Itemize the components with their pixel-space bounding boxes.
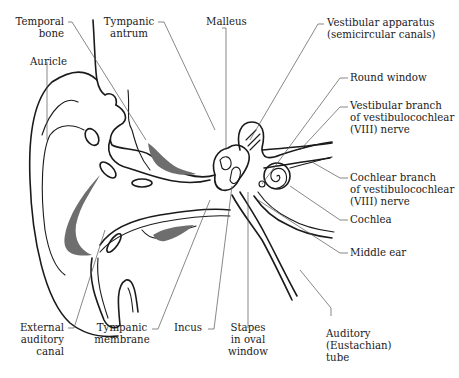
label-tympanic-antrum: Tympanic antrum bbox=[102, 16, 156, 40]
leader-auditory-tube bbox=[300, 270, 331, 316]
label-line: Vestibular branch bbox=[350, 100, 454, 112]
label-stapes-in-oval-window: Stapes in oval window bbox=[226, 322, 270, 358]
bone-cell-3 bbox=[132, 179, 152, 187]
canal-lower-loop-inner bbox=[98, 258, 133, 318]
semicircular-canal-hatch bbox=[246, 130, 260, 150]
label-line: tube bbox=[326, 352, 392, 364]
leader-round-window bbox=[262, 78, 348, 184]
label-vestibular-branch: Vestibular branch of vestibulocochlear (… bbox=[350, 100, 454, 136]
label-line: Cochlear branch bbox=[350, 172, 454, 184]
label-line: Tympanic bbox=[94, 322, 150, 334]
auditory-tube-inner bbox=[240, 192, 297, 296]
concha-shading bbox=[64, 175, 100, 256]
cochlea-spiral bbox=[271, 168, 287, 188]
label-line: Auricle bbox=[30, 56, 67, 68]
leader-cochlear-branch bbox=[312, 162, 348, 178]
label-line: (VIII) nerve bbox=[350, 124, 454, 136]
label-line: of vestibulocochlear bbox=[350, 112, 454, 124]
label-line: Vestibular apparatus bbox=[327, 17, 436, 29]
label-line: canal bbox=[10, 346, 64, 358]
bone-cell-1 bbox=[82, 126, 101, 148]
leader-malleus bbox=[222, 28, 226, 150]
label-line: of vestibulocochlear bbox=[350, 184, 454, 196]
ossicles-outline bbox=[213, 145, 249, 190]
label-line: Round window bbox=[350, 72, 427, 84]
label-line: Cochlea bbox=[350, 214, 392, 226]
label-line: bone bbox=[10, 28, 64, 40]
label-line: Malleus bbox=[206, 16, 247, 28]
middle-ear-lower-wall-inner bbox=[258, 192, 334, 232]
label-auricle: Auricle bbox=[30, 56, 67, 68]
label-line: Auditory bbox=[326, 328, 392, 340]
label-cochlear-branch: Cochlear branch of vestibulocochlear (VI… bbox=[350, 172, 454, 208]
label-temporal-bone: Temporal bone bbox=[10, 16, 64, 40]
label-external-auditory-canal: External auditory canal bbox=[10, 322, 64, 358]
canal-cell bbox=[104, 232, 123, 255]
label-incus: Incus bbox=[174, 322, 202, 334]
label-malleus: Malleus bbox=[206, 16, 247, 28]
antrum-line bbox=[128, 90, 150, 170]
label-line: window bbox=[226, 346, 270, 358]
label-line: External bbox=[10, 322, 64, 334]
auricle-inner-fold bbox=[42, 100, 78, 135]
label-line: Incus bbox=[174, 322, 202, 334]
label-line: Temporal bbox=[10, 16, 64, 28]
leader-incus bbox=[208, 186, 232, 329]
label-line: Stapes bbox=[226, 322, 270, 334]
antrum-shading bbox=[148, 143, 196, 175]
label-line: (VIII) nerve bbox=[350, 196, 454, 208]
canal-shading bbox=[153, 225, 194, 241]
label-cochlea: Cochlea bbox=[350, 214, 392, 226]
label-vestibular-apparatus: Vestibular apparatus (semicircular canal… bbox=[327, 17, 436, 41]
label-middle-ear: Middle ear bbox=[350, 247, 406, 259]
malleus-shape bbox=[220, 157, 231, 170]
label-line: (semicircular canals) bbox=[327, 29, 436, 41]
label-line: (Eustachian) bbox=[326, 340, 392, 352]
label-line: Middle ear bbox=[350, 247, 406, 259]
auditory-tube-outer bbox=[232, 195, 292, 300]
label-line: Tympanic bbox=[102, 16, 156, 28]
label-line: membrane bbox=[94, 334, 150, 346]
label-line: in oval bbox=[226, 334, 270, 346]
label-round-window: Round window bbox=[350, 72, 427, 84]
leader-vestibular-apparatus bbox=[250, 24, 324, 140]
leader-tympanic-antrum bbox=[158, 22, 215, 130]
leader-cochlea bbox=[290, 186, 348, 220]
label-line: antrum bbox=[102, 28, 156, 40]
label-line: auditory bbox=[10, 334, 64, 346]
label-tympanic-membrane: Tympanic membrane bbox=[94, 322, 150, 346]
label-auditory-eustachian-tube: Auditory (Eustachian) tube bbox=[326, 328, 392, 364]
